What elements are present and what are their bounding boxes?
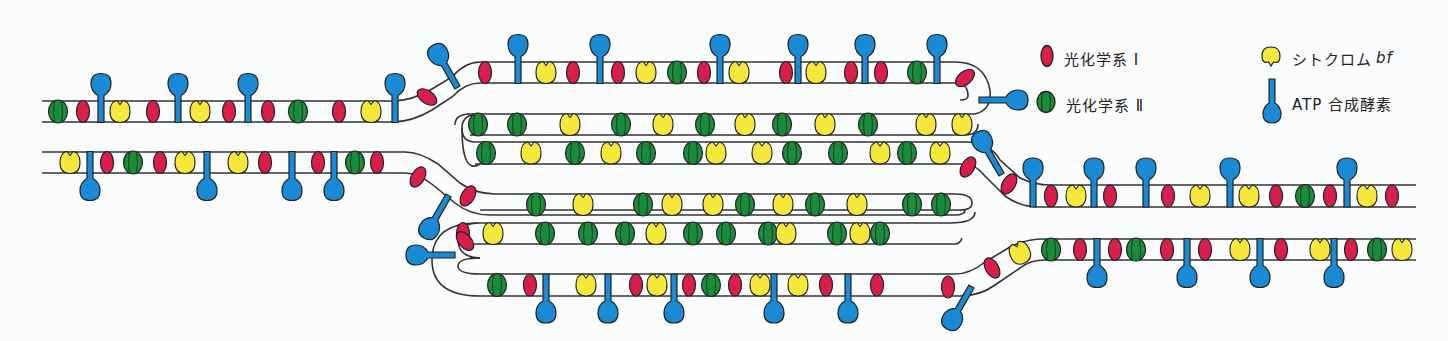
psi-complex [875,62,888,84]
psii-complex [1127,238,1146,261]
psi-complex [154,152,167,174]
psii-complex [616,222,635,245]
psi-complex [698,62,711,84]
cytochrome-bf-complex [228,152,248,174]
cytochrome-bf-complex [952,114,972,136]
psii-complex [1042,238,1061,261]
legend-label-cyt-italic: bf [1376,49,1393,67]
cytochrome-bf-complex [752,142,772,164]
psi-complex [457,183,479,209]
psii-complex [908,61,927,84]
cytochrome-bf-complex [706,142,726,164]
psii-complex [612,113,631,136]
cytochrome-bf-complex [1239,185,1259,207]
psii-complex [508,113,527,136]
atp-synthase [1250,239,1270,288]
cytochrome-bf-complex [1392,239,1412,261]
cytochrome-bf-complex [773,194,793,216]
legend-item-atp: ATP 合成酵素 [1262,77,1392,129]
psi-complex [1104,185,1117,207]
legend-item-psii: 光化学系 Ⅱ [1036,90,1144,118]
atp-synthase [424,40,466,92]
psi-complex [333,101,346,123]
cytochrome-bf-complex [806,62,826,84]
green-striped-oval-icon [1036,90,1056,118]
atp-synthase [91,74,111,123]
psii-complex [1296,185,1315,208]
psii-complex [736,193,755,216]
atp-synthase [1136,158,1156,207]
cytochrome-bf-complex [636,62,656,84]
psii-complex [684,222,703,245]
cytochrome-bf-complex [847,194,867,216]
psii-complex [527,193,546,216]
psi-complex [1161,239,1174,261]
atp-synthase [536,274,556,323]
psi-complex [259,152,272,174]
cytochrome-bf-complex [729,62,749,84]
cytochrome-bf-complex [735,114,755,136]
cytochrome-bf-complex [190,101,210,123]
legend-label-psii: 光化学系 Ⅱ [1066,94,1144,115]
atp-synthase [590,35,610,84]
legend-item-psi: 光化学系 Ⅰ [1040,44,1139,72]
psi-complex [981,255,1003,281]
cytochrome-bf-complex [653,114,673,136]
cytochrome-bf-complex [560,114,580,136]
psii-complex [536,222,555,245]
cytochrome-bf-complex [930,142,950,164]
psi-complex [414,85,439,108]
atp-synthase [598,274,618,323]
cytochrome-bf-complex [916,114,936,136]
atp-synthase [927,35,947,84]
cytochrome-bf-complex [1310,239,1330,261]
psi-complex [407,164,429,190]
psii-complex [579,222,598,245]
atp-synthase [968,127,1010,179]
atp-synthase [324,152,344,201]
psii-complex [668,61,687,84]
cytochrome-bf-complex [662,194,682,216]
psii-complex [469,113,488,136]
psi-complex [1324,185,1337,207]
legend-item-cyt: シトクロム bf [1260,44,1393,72]
psi-complex [524,274,537,296]
psii-complex [759,222,778,245]
atp-synthase [838,274,858,323]
psi-complex [101,152,114,174]
psi-complex [845,62,858,84]
psii-complex [783,142,802,165]
cytochrome-bf-complex [1066,185,1086,207]
cytochrome-bf-complex [361,101,381,123]
psi-complex [1074,239,1087,261]
atp-synthase [1023,158,1043,207]
atp-synthase [406,245,455,265]
psii-complex [773,113,792,136]
psi-complex [820,274,833,296]
atp-synthase [238,74,258,123]
blue-lollipop-icon [1262,77,1282,129]
psi-complex [683,274,696,296]
cytochrome-bf-complex [815,114,835,136]
cytochrome-bf-complex [60,152,80,174]
psi-complex [780,62,793,84]
atp-synthase [168,74,188,123]
cytochrome-bf-complex [601,142,621,164]
psii-complex [806,193,825,216]
psi-complex [1162,185,1175,207]
psii-complex [859,113,878,136]
red-oval-icon [1040,44,1054,72]
legend-label-cyt: シトクロム [1292,48,1372,69]
psii-complex [684,142,703,165]
psi-complex [312,152,325,174]
thylakoid-diagram [0,0,1448,341]
legend-label-atp: ATP 合成酵素 [1292,93,1392,114]
atp-synthase [385,74,405,123]
psi-complex [147,101,160,123]
psi-complex [630,274,643,296]
cytochrome-bf-complex [1357,185,1377,207]
psii-complex [289,100,308,123]
atp-synthase [282,152,302,201]
psii-complex [903,193,922,216]
atp-synthase [1084,158,1104,207]
